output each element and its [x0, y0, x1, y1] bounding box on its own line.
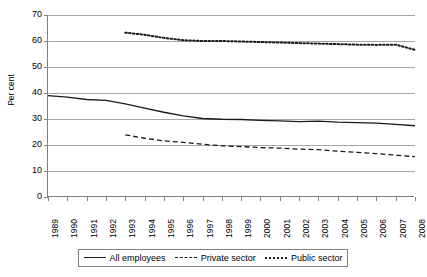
x-tick-mark: [67, 197, 68, 201]
legend-label: Public sector: [291, 254, 343, 263]
x-tick-label: 1991: [90, 219, 99, 238]
x-tick-label: 1992: [109, 219, 118, 238]
x-tick-label: 2004: [341, 219, 350, 238]
y-tick-label: 10: [2, 166, 42, 175]
x-tick-mark: [338, 197, 339, 201]
x-tick-label: 1997: [206, 219, 215, 238]
x-tick-mark: [299, 197, 300, 201]
x-tick-mark: [357, 197, 358, 201]
y-tick-label: 70: [2, 10, 42, 19]
x-tick-label: 1999: [244, 219, 253, 238]
x-tick-label: 1995: [167, 219, 176, 238]
x-tick-label: 2001: [283, 219, 292, 238]
x-tick-mark: [145, 197, 146, 201]
legend-item[interactable]: Private sector: [175, 254, 256, 263]
x-tick-label: 1990: [70, 219, 79, 238]
x-tick-mark: [376, 197, 377, 201]
x-tick-label: 2003: [321, 219, 330, 238]
x-tick-label: 1989: [51, 219, 60, 238]
x-tick-label: 2005: [360, 219, 369, 238]
legend-label: All employees: [110, 254, 166, 263]
y-tick-label: 20: [2, 140, 42, 149]
y-tick-label: 50: [2, 62, 42, 71]
x-axis-labels: 1989199019911992199319941995199619971998…: [47, 202, 414, 244]
x-tick-label: 2006: [379, 219, 388, 238]
y-tick-label: 60: [2, 36, 42, 45]
legend-item[interactable]: Public sector: [265, 254, 343, 263]
y-tick-label: 0: [2, 192, 42, 201]
x-tick-mark: [241, 197, 242, 201]
series-layer: [48, 15, 415, 197]
y-tick-label: 40: [2, 88, 42, 97]
x-tick-mark: [280, 197, 281, 201]
series-line: [48, 96, 415, 126]
x-tick-mark: [48, 197, 49, 201]
x-tick-mark: [415, 197, 416, 201]
legend-label: Private sector: [201, 254, 256, 263]
x-tick-label: 2002: [302, 219, 311, 238]
x-tick-label: 1994: [148, 219, 157, 238]
y-tick-label: 30: [2, 114, 42, 123]
x-tick-label: 1993: [128, 219, 137, 238]
legend-item[interactable]: All employees: [84, 254, 166, 263]
x-tick-mark: [164, 197, 165, 201]
x-tick-label: 2007: [399, 219, 408, 238]
x-tick-mark: [222, 197, 223, 201]
legend-line-icon: [84, 255, 106, 261]
x-tick-label: 2008: [418, 219, 427, 238]
legend-line-icon: [265, 255, 287, 261]
chart-legend: All employeesPrivate sectorPublic sector: [78, 249, 348, 267]
x-tick-mark: [87, 197, 88, 201]
series-line: [125, 33, 415, 50]
x-tick-label: 2000: [263, 219, 272, 238]
x-tick-mark: [260, 197, 261, 201]
x-tick-mark: [396, 197, 397, 201]
x-tick-mark: [106, 197, 107, 201]
series-line: [125, 135, 415, 157]
x-tick-mark: [183, 197, 184, 201]
x-tick-mark: [125, 197, 126, 201]
plot-area: [47, 15, 414, 197]
legend-line-icon: [175, 255, 197, 261]
x-tick-label: 1998: [225, 219, 234, 238]
x-tick-mark: [318, 197, 319, 201]
x-tick-label: 1996: [186, 219, 195, 238]
x-tick-mark: [203, 197, 204, 201]
